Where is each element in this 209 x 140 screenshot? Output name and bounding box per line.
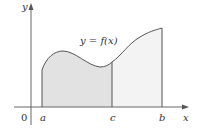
y-axis-label: y <box>21 1 28 12</box>
region-a-to-c <box>42 51 112 107</box>
point-a-label: a <box>40 112 46 123</box>
point-b-label: b <box>159 112 165 123</box>
x-axis-arrow-icon <box>182 105 189 110</box>
point-c-label: c <box>110 112 116 123</box>
curve-label: y = f(x) <box>79 35 118 46</box>
x-axis-label: x <box>183 112 189 123</box>
origin-label: 0 <box>21 112 27 123</box>
y-axis-arrow-icon <box>29 3 34 10</box>
region-c-to-b <box>112 28 162 107</box>
area-diagram: y x 0 a c b y = f(x) <box>0 0 209 140</box>
